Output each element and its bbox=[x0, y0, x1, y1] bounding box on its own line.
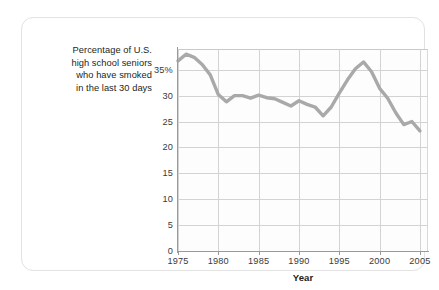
y-tick-label: 0 bbox=[143, 246, 173, 256]
x-tick-label: 1995 bbox=[319, 256, 359, 266]
x-tick-label: 1975 bbox=[158, 256, 198, 266]
x-axis-line bbox=[177, 251, 429, 252]
x-tick-mark bbox=[380, 251, 381, 255]
caption-line-2: high school seniors bbox=[30, 57, 152, 70]
x-axis-title: Year bbox=[178, 272, 428, 283]
x-tick-label: 1985 bbox=[239, 256, 279, 266]
caption-line-1: Percentage of U.S. bbox=[30, 44, 152, 57]
x-tick-mark bbox=[178, 251, 179, 255]
data-line-series bbox=[178, 49, 428, 251]
x-tick-label: 1990 bbox=[279, 256, 319, 266]
y-axis-line bbox=[177, 47, 178, 253]
y-tick-label: 25 bbox=[143, 117, 173, 127]
x-tick-mark bbox=[420, 251, 421, 255]
x-tick-mark bbox=[218, 251, 219, 255]
x-tick-mark bbox=[259, 251, 260, 255]
caption-line-4: in the last 30 days bbox=[30, 82, 152, 95]
x-tick-label: 2000 bbox=[360, 256, 400, 266]
x-tick-mark bbox=[299, 251, 300, 255]
x-axis-tick-labels: 1975198019851990199520002005 bbox=[178, 256, 428, 270]
figure-card: Percentage of U.S. high school seniors w… bbox=[21, 17, 425, 271]
y-tick-label: 5 bbox=[143, 220, 173, 230]
x-tick-mark bbox=[339, 251, 340, 255]
y-tick-label: 15 bbox=[143, 168, 173, 178]
y-tick-label: 20 bbox=[143, 142, 173, 152]
series-polyline bbox=[178, 54, 420, 131]
caption-line-3: who have smoked bbox=[30, 69, 152, 82]
y-axis-tick-labels: 05101520253035% bbox=[140, 49, 173, 251]
y-tick-label: 10 bbox=[143, 194, 173, 204]
x-tick-label: 1980 bbox=[198, 256, 238, 266]
chart-caption: Percentage of U.S. high school seniors w… bbox=[30, 44, 152, 94]
plot-area bbox=[178, 49, 428, 251]
y-tick-label: 35% bbox=[143, 65, 173, 75]
y-tick-label: 30 bbox=[143, 91, 173, 101]
x-tick-label: 2005 bbox=[400, 256, 439, 266]
